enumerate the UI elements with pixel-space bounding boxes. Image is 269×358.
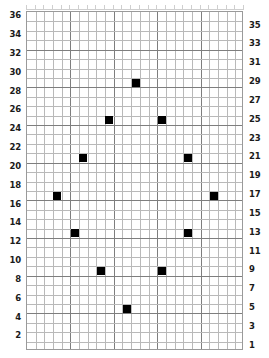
gridline-horizontal [27, 125, 242, 126]
top-tick-mark [95, 5, 96, 10]
left-axis-tick-label: 10 [10, 256, 21, 265]
gridline-vertical [183, 12, 184, 349]
top-tick-rule [26, 5, 243, 10]
top-tick-mark [69, 5, 70, 10]
top-tick-mark [217, 5, 218, 10]
gridline-vertical [114, 12, 115, 349]
left-axis-tick-label: 2 [15, 331, 21, 340]
gridline-horizontal [27, 266, 242, 267]
gridline-vertical [79, 12, 80, 349]
left-axis-tick-label: 26 [10, 105, 21, 114]
top-tick-mark [174, 5, 175, 10]
gridline-horizontal [27, 31, 242, 32]
left-axis-tick-label: 34 [10, 30, 21, 39]
left-axis-tick-label: 28 [10, 87, 21, 96]
data-point-marker [97, 267, 105, 275]
gridline-horizontal [27, 163, 242, 164]
gridline-horizontal [27, 304, 242, 305]
data-point-marker [105, 116, 113, 124]
data-point-marker [132, 79, 140, 87]
top-tick-mark [191, 5, 192, 10]
right-axis-tick-label: 5 [249, 303, 255, 312]
right-axis-tick-label: 29 [249, 77, 260, 86]
gridline-horizontal [27, 247, 242, 248]
gridline-horizontal [27, 313, 242, 314]
gridline-vertical [62, 12, 63, 349]
top-tick-mark [243, 5, 244, 10]
gridline-horizontal [27, 50, 242, 51]
top-tick-mark [61, 5, 62, 10]
gridline-horizontal [27, 59, 242, 60]
right-axis-tick-label: 31 [249, 58, 260, 67]
top-tick-mark [113, 5, 114, 10]
right-axis-tick-label: 33 [249, 39, 260, 48]
data-point-marker [184, 154, 192, 162]
right-axis-tick-label: 25 [249, 115, 260, 124]
right-axis-tick-label: 11 [249, 247, 260, 256]
right-axis-tick-label: 9 [249, 265, 255, 274]
gridline-horizontal [27, 116, 242, 117]
top-tick-mark [121, 5, 122, 10]
right-axis-tick-label: 3 [249, 322, 255, 331]
left-axis: 36343230282624222018161412108642 [0, 0, 24, 358]
left-axis-tick-label: 16 [10, 200, 21, 209]
gridline-horizontal [27, 153, 242, 154]
gridline-horizontal [27, 229, 242, 230]
right-axis-tick-label: 23 [249, 134, 260, 143]
gridline-horizontal [27, 87, 242, 88]
gridline-horizontal [27, 238, 242, 239]
gridline-vertical [227, 12, 228, 349]
gridline-horizontal [27, 323, 242, 324]
gridline-vertical [209, 12, 210, 349]
gridline-vertical [218, 12, 219, 349]
left-axis-tick-label: 36 [10, 11, 21, 20]
right-axis: 3533312927252321191715131197531 [245, 0, 269, 358]
right-axis-tick-label: 1 [249, 341, 255, 350]
gridline-horizontal [27, 69, 242, 70]
data-point-marker [210, 192, 218, 200]
gridline-vertical [192, 12, 193, 349]
gridline-vertical [235, 12, 236, 349]
right-axis-tick-label: 17 [249, 190, 260, 199]
gridline-vertical [96, 12, 97, 349]
plot-area [26, 11, 243, 350]
gridline-horizontal [27, 200, 242, 201]
gridline-horizontal [27, 295, 242, 296]
gridline-horizontal [27, 172, 242, 173]
gridline-vertical [166, 12, 167, 349]
left-axis-tick-label: 22 [10, 143, 21, 152]
top-tick-mark [43, 5, 44, 10]
data-point-marker [184, 229, 192, 237]
gridline-vertical [122, 12, 123, 349]
left-axis-tick-label: 14 [10, 218, 21, 227]
top-tick-mark [52, 5, 53, 10]
right-axis-tick-label: 35 [249, 21, 260, 30]
gridline-vertical [105, 12, 106, 349]
gridline-horizontal [27, 144, 242, 145]
left-axis-tick-label: 32 [10, 49, 21, 58]
gridline-vertical [149, 12, 150, 349]
top-tick-mark [35, 5, 36, 10]
gridline-horizontal [27, 257, 242, 258]
left-axis-tick-label: 30 [10, 68, 21, 77]
data-point-marker [79, 154, 87, 162]
left-axis-tick-label: 12 [10, 237, 21, 246]
right-axis-tick-label: 19 [249, 171, 260, 180]
left-axis-tick-label: 24 [10, 124, 21, 133]
top-tick-mark [78, 5, 79, 10]
top-tick-mark [104, 5, 105, 10]
left-axis-tick-label: 4 [15, 313, 21, 322]
top-rule [26, 9, 243, 10]
top-tick-mark [182, 5, 183, 10]
top-tick-mark [139, 5, 140, 10]
gridline-vertical [140, 12, 141, 349]
data-point-marker [123, 305, 131, 313]
gridline-horizontal [27, 210, 242, 211]
gridline-horizontal [27, 106, 242, 107]
gridline-horizontal [27, 219, 242, 220]
gridline-horizontal [27, 21, 242, 22]
right-axis-tick-label: 27 [249, 96, 260, 105]
gridline-vertical [70, 12, 71, 349]
left-axis-tick-label: 20 [10, 162, 21, 171]
top-tick-mark [165, 5, 166, 10]
